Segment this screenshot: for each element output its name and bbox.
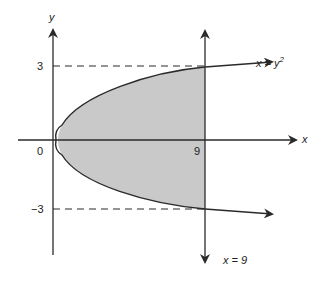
tick-label-y3: 3 <box>37 61 43 72</box>
diagram-canvas: y x 0 3 −3 9 x = y2 x = 9 <box>0 0 318 284</box>
vertical-line-label: x = 9 <box>223 255 247 266</box>
tick-label-ym3: −3 <box>31 204 44 215</box>
diagram-svg <box>0 0 318 284</box>
x-axis-label: x <box>302 134 308 145</box>
parabola-label: x = y2 <box>256 56 284 69</box>
y-axis-label: y <box>49 12 55 23</box>
parabola-label-text: x = y <box>256 57 280 69</box>
tick-label-x9: 9 <box>194 146 200 157</box>
origin-label: 0 <box>37 146 43 157</box>
shaded-region <box>58 67 205 209</box>
parabola-label-exponent: 2 <box>280 55 284 64</box>
